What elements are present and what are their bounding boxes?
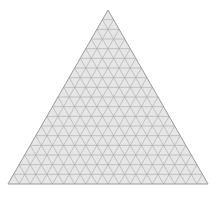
ternary-grid-diagram — [0, 0, 218, 199]
